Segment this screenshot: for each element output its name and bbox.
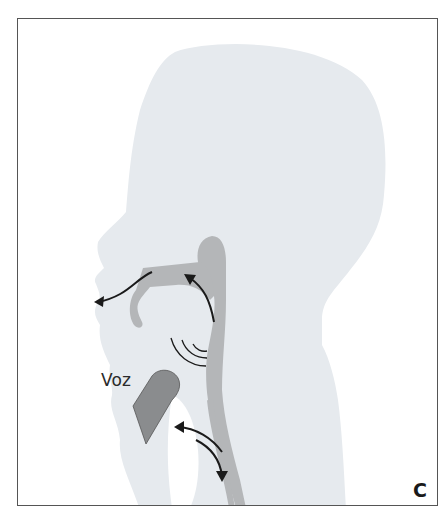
head-silhouette <box>95 44 386 510</box>
panel-label: C <box>413 479 427 501</box>
head-anatomy-illustration <box>0 0 444 521</box>
voice-label: Voz <box>101 370 131 390</box>
